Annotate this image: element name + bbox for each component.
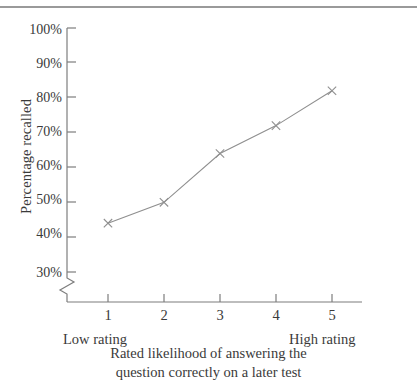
y-axis-break-icon bbox=[60, 272, 74, 302]
plot-canvas bbox=[0, 10, 417, 381]
data-point-marker bbox=[104, 219, 112, 227]
figure-caption: Rated likelihood of answering the questi… bbox=[0, 344, 417, 381]
data-point-marker bbox=[272, 121, 280, 129]
top-horizontal-rule bbox=[0, 6, 417, 8]
line-chart-figure: Percentage recalled 100% 90% 80% 70% 60%… bbox=[0, 10, 417, 381]
data-series-line bbox=[108, 91, 332, 223]
figure-caption-line-1: Rated likelihood of answering the bbox=[0, 344, 417, 363]
data-point-marker bbox=[216, 149, 224, 157]
figure-page: Percentage recalled 100% 90% 80% 70% 60%… bbox=[0, 0, 417, 381]
data-point-marker bbox=[160, 198, 168, 206]
figure-caption-line-2: question correctly on a later test bbox=[0, 363, 417, 381]
data-point-marker bbox=[328, 87, 336, 95]
data-series-markers bbox=[104, 87, 336, 228]
